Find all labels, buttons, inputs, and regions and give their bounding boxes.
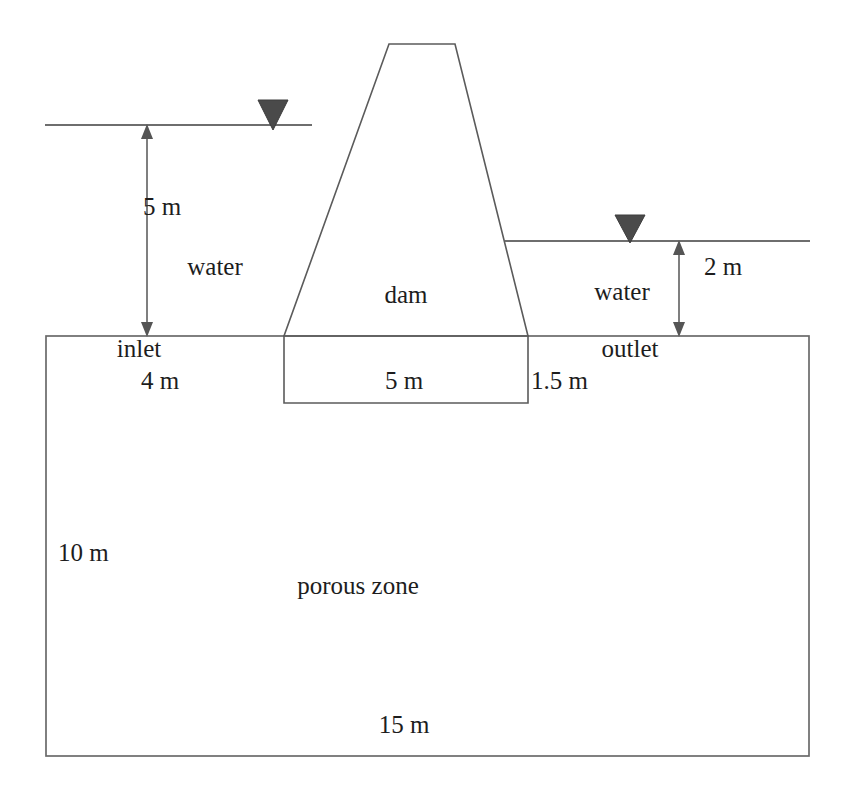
- upstream-water-label: water: [187, 253, 243, 280]
- downstream-head-arrow-up-icon: [673, 240, 685, 255]
- upstream-head-arrow-up-icon: [141, 124, 153, 139]
- downstream-water-label: water: [594, 278, 650, 305]
- downstream-head-arrow-down-icon: [673, 322, 685, 337]
- inlet-label: inlet: [117, 335, 161, 362]
- dam-base-width-label: 5 m: [385, 367, 424, 394]
- inlet-length-label: 4 m: [141, 367, 180, 394]
- dam-seepage-diagram: 5 m water 2 m water dam inlet outlet 4 m…: [0, 0, 851, 797]
- upstream-head-label: 5 m: [143, 193, 182, 220]
- outlet-label: outlet: [602, 335, 659, 362]
- dam-label: dam: [384, 281, 428, 308]
- diagram-canvas: 5 m water 2 m water dam inlet outlet 4 m…: [0, 0, 851, 797]
- downstream-water-table-icon: [615, 215, 645, 243]
- porous-zone-label: porous zone: [297, 572, 419, 599]
- downstream-head-label: 2 m: [704, 253, 743, 280]
- porous-zone-width-label: 15 m: [379, 711, 430, 738]
- porous-zone-rect: [46, 336, 809, 756]
- outlet-length-label: 1.5 m: [531, 367, 589, 394]
- porous-zone-depth-label: 10 m: [58, 539, 109, 566]
